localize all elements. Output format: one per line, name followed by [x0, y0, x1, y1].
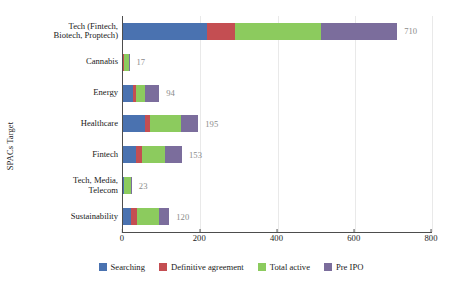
x-tick-label: 800 [425, 233, 438, 243]
bar-segment[interactable] [142, 146, 166, 163]
bar-segment[interactable] [131, 177, 132, 194]
x-axis-ticks: 0200400600800 [122, 233, 431, 247]
bar-segment[interactable] [321, 23, 397, 40]
legend-label: Pre IPO [336, 262, 363, 272]
x-tick-mark [354, 229, 355, 233]
chart-legend: SearchingDefinitive agreementTotal activ… [0, 262, 462, 272]
category-label: Sustainability [14, 212, 118, 222]
x-tick-mark [122, 229, 123, 233]
x-tick-mark [276, 229, 277, 233]
legend-label: Definitive agreement [171, 262, 244, 272]
category-label: Tech (Fintech, Biotech, Proptech) [14, 22, 118, 41]
legend-label: Searching [111, 262, 145, 272]
plot-area: Tech (Fintech, Biotech, Proptech)710Cann… [122, 16, 432, 233]
bar-total-label: 195 [205, 119, 218, 129]
bar-segment[interactable] [123, 115, 145, 132]
gridline-800 [432, 16, 433, 232]
bar-total-label: 94 [166, 88, 175, 98]
legend-item[interactable]: Total active [258, 262, 310, 272]
x-tick-label: 600 [347, 233, 360, 243]
bar-segment[interactable] [123, 23, 207, 40]
category-label: Fintech [14, 150, 118, 160]
stacked-bar[interactable] [123, 115, 198, 132]
y-axis-title: SPACs Target [2, 0, 18, 292]
legend-swatch-icon [258, 263, 266, 271]
category-label: Tech, Media, Telecom [14, 176, 118, 195]
bar-row: Sustainability120 [123, 201, 189, 232]
bar-total-label: 153 [189, 150, 202, 160]
stacked-bar[interactable] [123, 208, 169, 225]
stacked-bar-chart: SPACs Target Tech (Fintech, Biotech, Pro… [0, 0, 462, 292]
x-tick-label: 0 [120, 233, 124, 243]
bar-row: Tech, Media, Telecom23 [123, 170, 147, 201]
x-tick-mark [431, 229, 432, 233]
bar-rows: Tech (Fintech, Biotech, Proptech)710Cann… [123, 16, 432, 232]
category-label: Cannabis [14, 57, 118, 67]
bar-segment[interactable] [181, 115, 198, 132]
bar-segment[interactable] [159, 208, 170, 225]
category-label: Energy [14, 88, 118, 98]
stacked-bar[interactable] [123, 177, 132, 194]
bar-total-label: 710 [404, 26, 417, 36]
bar-segment[interactable] [150, 115, 181, 132]
bar-segment[interactable] [123, 85, 133, 102]
bar-segment[interactable] [123, 146, 136, 163]
stacked-bar[interactable] [123, 146, 182, 163]
legend-swatch-icon [324, 263, 332, 271]
bar-row: Fintech153 [123, 139, 202, 170]
y-axis-title-text: SPACs Target [5, 122, 15, 170]
legend-swatch-icon [99, 263, 107, 271]
bar-segment[interactable] [235, 23, 321, 40]
bar-row: Cannabis17 [123, 47, 145, 78]
stacked-bar[interactable] [123, 23, 397, 40]
bar-segment[interactable] [165, 146, 182, 163]
bar-total-label: 120 [176, 212, 189, 222]
bar-total-label: 23 [139, 181, 148, 191]
bar-row: Tech (Fintech, Biotech, Proptech)710 [123, 16, 417, 47]
legend-label: Total active [270, 262, 310, 272]
x-tick-label: 200 [193, 233, 206, 243]
bar-segment[interactable] [124, 177, 131, 194]
legend-item[interactable]: Definitive agreement [159, 262, 244, 272]
legend-item[interactable]: Pre IPO [324, 262, 363, 272]
legend-swatch-icon [159, 263, 167, 271]
bar-segment[interactable] [136, 85, 146, 102]
bar-segment[interactable] [207, 23, 235, 40]
stacked-bar[interactable] [123, 85, 159, 102]
x-tick-label: 400 [270, 233, 283, 243]
stacked-bar[interactable] [123, 54, 130, 71]
bar-row: Energy94 [123, 78, 175, 109]
bar-row: Healthcare195 [123, 109, 218, 140]
category-label: Healthcare [14, 119, 118, 129]
bar-segment[interactable] [123, 208, 131, 225]
bar-segment[interactable] [137, 208, 158, 225]
legend-item[interactable]: Searching [99, 262, 145, 272]
x-tick-mark [199, 229, 200, 233]
bar-segment[interactable] [145, 85, 159, 102]
bar-total-label: 17 [137, 57, 146, 67]
